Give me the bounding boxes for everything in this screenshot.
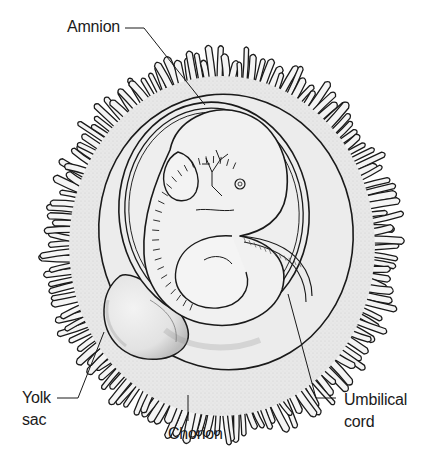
somite xyxy=(152,230,159,231)
label-yolk-sac-line2: sac xyxy=(22,409,51,431)
villus xyxy=(243,47,249,81)
label-amnion-text: Amnion xyxy=(67,16,120,38)
villus xyxy=(47,213,74,221)
label-yolk-sac: Yolk sac xyxy=(22,387,51,431)
label-umbilical-cord-line2: cord xyxy=(344,411,407,433)
villus xyxy=(372,236,405,244)
label-amnion: Amnion xyxy=(67,16,120,38)
label-chorion-text: Chorion xyxy=(168,423,223,445)
label-chorion: Chorion xyxy=(168,423,223,445)
villus xyxy=(240,411,246,436)
label-yolk-sac-line1: Yolk xyxy=(22,387,51,409)
villus xyxy=(44,226,73,233)
label-umbilical-cord: Umbilical cord xyxy=(344,389,407,433)
label-umbilical-cord-line1: Umbilical xyxy=(344,389,407,411)
